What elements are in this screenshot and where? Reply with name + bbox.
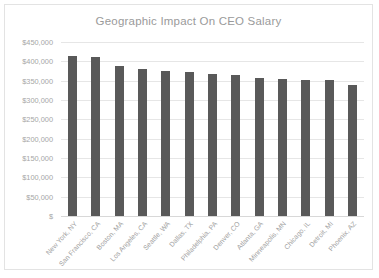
bar-slot (178, 42, 201, 216)
chart-title: Geographic Impact On CEO Salary (5, 15, 372, 27)
y-axis-tick-label: $350,000 (22, 76, 53, 85)
bar[interactable] (68, 56, 77, 216)
y-axis-tick-label: $450,000 (22, 38, 53, 47)
bar-slot (271, 42, 294, 216)
x-axis-slot: Seattle, WA (154, 217, 177, 278)
y-axis-tick-label: $300,000 (22, 96, 53, 105)
bar[interactable] (278, 79, 287, 216)
bar-slot (248, 42, 271, 216)
x-axis: New York, NYSan Francisco, CABoston, MAL… (61, 217, 364, 278)
bar[interactable] (348, 85, 357, 216)
bar[interactable] (255, 78, 264, 216)
x-axis-slot: Chicago, IL (294, 217, 317, 278)
bar[interactable] (325, 80, 334, 216)
bar[interactable] (208, 74, 217, 216)
bar[interactable] (138, 69, 147, 216)
bar-series (61, 42, 364, 216)
bar-slot (84, 42, 107, 216)
x-axis-slot: Phoenix, AZ (341, 217, 364, 278)
bar-slot (108, 42, 131, 216)
bar-slot (317, 42, 340, 216)
bar[interactable] (231, 75, 240, 216)
plot-area (61, 42, 364, 216)
y-axis-tick-label: $400,000 (22, 57, 53, 66)
bar-slot (224, 42, 247, 216)
bar-slot (294, 42, 317, 216)
y-axis-tick-label: $100,000 (22, 173, 53, 182)
bar[interactable] (161, 71, 170, 216)
y-axis-tick-label: $250,000 (22, 115, 53, 124)
bar[interactable] (115, 66, 124, 216)
y-axis-tick-label: $200,000 (22, 134, 53, 143)
bar-slot (61, 42, 84, 216)
bar[interactable] (301, 80, 310, 216)
bar-slot (131, 42, 154, 216)
y-axis: $450,000$400,000$350,000$300,000$250,000… (5, 42, 57, 216)
bar-slot (154, 42, 177, 216)
y-axis-tick-label: $ (49, 212, 53, 221)
x-axis-slot: Denver, CO (224, 217, 247, 278)
y-axis-tick-label: $150,000 (22, 154, 53, 163)
bar[interactable] (91, 57, 100, 216)
chart-container: Geographic Impact On CEO Salary $450,000… (4, 4, 373, 270)
y-axis-tick-label: $50,000 (26, 192, 53, 201)
bar-slot (341, 42, 364, 216)
bar[interactable] (185, 72, 194, 216)
bar-slot (201, 42, 224, 216)
